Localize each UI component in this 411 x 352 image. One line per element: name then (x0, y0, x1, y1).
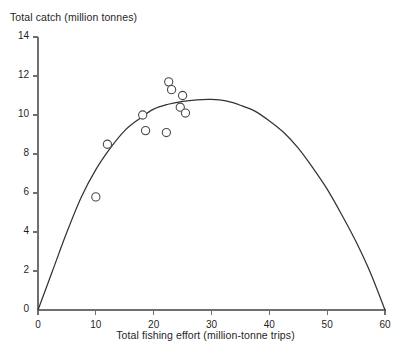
y-axis-tick-label: 12 (7, 69, 29, 80)
data-point-marker (92, 193, 100, 201)
y-axis-ticks (33, 37, 38, 271)
data-point-marker (181, 109, 189, 117)
y-axis-tick-label: 14 (7, 30, 29, 41)
data-point-marker (167, 86, 175, 94)
y-axis-tick-label: 2 (7, 264, 29, 275)
data-point-marker (139, 111, 147, 119)
x-axis-ticks (38, 310, 385, 315)
plot-area (0, 0, 411, 352)
y-axis-group (33, 37, 38, 310)
x-axis-group (38, 310, 386, 315)
y-axis-tick-label: 10 (7, 108, 29, 119)
scatter-points-group (92, 78, 190, 201)
y-axis-tick-label: 0 (7, 303, 29, 314)
y-axis-tick-label: 6 (7, 186, 29, 197)
y-axis-tick-label: 8 (7, 147, 29, 158)
y-axis-tick-label: 4 (7, 225, 29, 236)
data-point-marker (141, 127, 149, 135)
data-point-marker (162, 128, 170, 136)
fitted-yield-curve (38, 99, 385, 310)
chart-container: Total catch (million tonnes) 02468101214… (0, 0, 411, 352)
data-point-marker (165, 78, 173, 86)
data-point-marker (178, 91, 186, 99)
x-axis-title: Total fishing effort (million-tonne trip… (0, 329, 411, 341)
data-point-marker (103, 140, 111, 148)
